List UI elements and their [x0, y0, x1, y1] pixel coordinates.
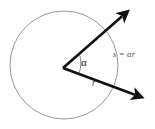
- diagram-canvas: [0, 0, 155, 129]
- lower-ray: [63, 68, 135, 95]
- circle-outline: [10, 11, 118, 119]
- angle-alpha-label: α: [81, 57, 87, 68]
- radius-label: r: [92, 79, 96, 89]
- geometry-diagram: s = αr α r: [0, 0, 155, 129]
- arc-length-label: s = αr: [113, 50, 135, 59]
